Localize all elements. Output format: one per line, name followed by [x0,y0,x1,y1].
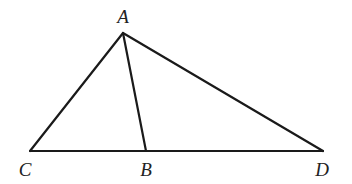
vertex-label-c: C [19,159,32,180]
segment-ad [123,33,323,151]
vertex-label-b: B [140,159,152,180]
segment-ac [30,33,123,151]
vertex-label-d: D [314,159,329,180]
vertex-label-a: A [115,6,129,27]
segment-ab [123,33,146,151]
triangle-diagram: A C B D [0,0,352,184]
